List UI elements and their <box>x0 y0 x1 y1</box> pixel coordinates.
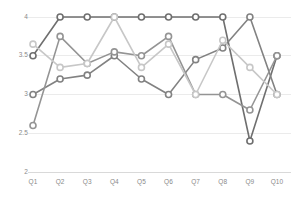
data-point-marker <box>247 14 253 20</box>
y-tick-label-4: 4 <box>4 14 28 21</box>
x-tick-label-q10: Q10 <box>262 179 292 186</box>
data-point-marker <box>138 76 144 82</box>
series-lines <box>30 14 280 144</box>
data-point-marker <box>247 64 253 70</box>
data-point-marker <box>111 14 117 20</box>
data-point-marker <box>57 76 63 82</box>
data-point-marker <box>247 138 253 144</box>
y-tick-label-3: 3 <box>4 91 28 98</box>
data-point-marker <box>57 33 63 39</box>
data-point-marker <box>274 53 280 59</box>
x-tick-label-q8: Q8 <box>208 179 238 186</box>
data-point-marker <box>220 14 226 20</box>
x-tick-label-q1: Q1 <box>18 179 48 186</box>
data-point-marker <box>30 123 36 129</box>
data-point-marker <box>57 14 63 20</box>
x-tick-label-q4: Q4 <box>99 179 129 186</box>
data-point-marker <box>30 92 36 98</box>
x-tick-label-q2: Q2 <box>45 179 75 186</box>
data-point-marker <box>30 53 36 59</box>
data-point-marker <box>220 92 226 98</box>
x-tick-label-q9: Q9 <box>235 179 265 186</box>
data-point-marker <box>274 92 280 98</box>
data-point-marker <box>193 57 199 63</box>
data-point-marker <box>166 41 172 47</box>
data-point-marker <box>166 14 172 20</box>
data-point-marker <box>111 49 117 55</box>
data-point-marker <box>57 64 63 70</box>
x-tick-label-q6: Q6 <box>154 179 184 186</box>
data-point-marker <box>138 64 144 70</box>
data-point-marker <box>138 14 144 20</box>
data-point-marker <box>220 37 226 43</box>
x-tick-label-q3: Q3 <box>72 179 102 186</box>
data-point-marker <box>30 41 36 47</box>
y-tick-label-3-5: 3.5 <box>4 52 28 59</box>
series-1 <box>30 14 280 144</box>
y-tick-label-2-5: 2.5 <box>4 130 28 137</box>
data-point-marker <box>166 92 172 98</box>
data-point-marker <box>193 14 199 20</box>
series-3 <box>30 33 280 128</box>
series-line-1 <box>33 17 277 141</box>
x-tick-label-q5: Q5 <box>126 179 156 186</box>
data-point-marker <box>166 33 172 39</box>
gridlines <box>28 17 291 172</box>
y-tick-label-2: 2 <box>4 169 28 176</box>
series-line-3 <box>33 36 277 125</box>
data-point-marker <box>84 72 90 78</box>
data-point-marker <box>84 14 90 20</box>
data-point-marker <box>247 107 253 113</box>
chart-plot-area <box>0 0 296 199</box>
line-chart: 22.533.54 Q1Q2Q3Q4Q5Q6Q7Q8Q9Q10 <box>0 0 296 199</box>
x-tick-label-q7: Q7 <box>181 179 211 186</box>
data-point-marker <box>138 53 144 59</box>
data-point-marker <box>193 92 199 98</box>
data-point-marker <box>84 61 90 67</box>
